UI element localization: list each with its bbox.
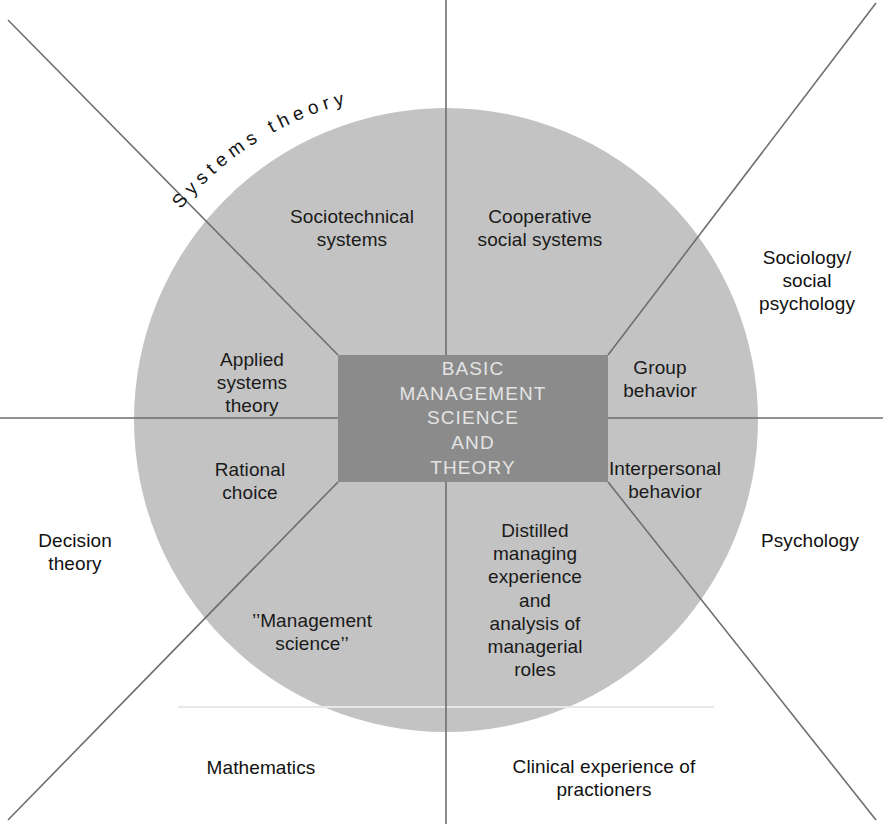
outer-label-psychology: Psychology	[761, 529, 859, 552]
sector-label-rational-choice: Rational choice	[215, 458, 286, 504]
sector-label-distilled-managing-experience: Distilled managing experience and analys…	[488, 519, 583, 681]
center-box-label: BASIC MANAGEMENT SCIENCE AND THEORY	[399, 357, 546, 480]
sector-label-management-science: ’’Management science’’	[252, 609, 372, 655]
outer-label-decision-theory: Decision theory	[38, 529, 112, 575]
outer-label-mathematics: Mathematics	[207, 756, 316, 779]
outer-label-sociology-social-psychology: Sociology/ social psychology	[759, 246, 855, 316]
sector-label-group-behavior: Group behavior	[623, 356, 697, 402]
sector-label-cooperative-social-systems: Cooperative social systems	[478, 205, 603, 251]
outer-label-clinical-experience-of-practioners: Clinical experience of practioners	[513, 755, 696, 801]
sector-label-interpersonal-behavior: Interpersonal behavior	[609, 457, 721, 503]
diagram-canvas: Systems theory BASIC MANAGEMENT SCIENCE …	[0, 0, 883, 824]
sector-label-applied-systems-theory: Applied systems theory	[217, 348, 287, 418]
sector-label-sociotechnical-systems: Sociotechnical systems	[290, 205, 414, 251]
